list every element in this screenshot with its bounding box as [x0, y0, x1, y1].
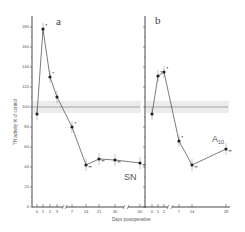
x-tick-label: 21 [97, 209, 102, 214]
significance-marker: * [182, 135, 184, 140]
y-tick-label: 60 [24, 144, 29, 149]
data-point [41, 27, 44, 30]
x-tick-label: 1 [42, 209, 45, 214]
series-line [37, 29, 140, 165]
x-tick-label: 2 [49, 209, 52, 214]
significance-marker: * [161, 70, 163, 75]
y-tick-label: 20 [24, 184, 29, 189]
y-tick-label: 180 [22, 24, 30, 29]
series-line [152, 72, 226, 165]
y-tick-label: 100 [22, 104, 30, 109]
region-label-sn: SN [124, 172, 137, 182]
significance-marker: * [75, 121, 77, 126]
y-tick-label: 40 [24, 164, 29, 169]
data-point [84, 163, 87, 166]
y-tick-label: 160 [22, 44, 30, 49]
x-tick-label: 14 [190, 209, 195, 214]
x-tick-label: 30 [113, 209, 118, 214]
panel-a-letter: a [56, 15, 61, 27]
data-point [150, 112, 153, 115]
data-point [97, 157, 100, 160]
y-tick-label: 80 [24, 124, 29, 129]
x-tick-label: 1 [157, 209, 160, 214]
y-tick-label: 120 [22, 84, 30, 89]
data-point [162, 70, 165, 73]
panel-b: 01271428******* [143, 16, 232, 214]
significance-marker: * [46, 23, 48, 28]
data-point [156, 74, 159, 77]
region-label-a10: A10 [212, 134, 224, 145]
x-axis-title: Days postoperative [112, 217, 151, 222]
x-tick-label: 14 [84, 209, 89, 214]
figure: 0204060801001201401601800123714213060***… [0, 0, 245, 232]
x-tick-label: 3 [56, 209, 59, 214]
significance-marker: * [167, 66, 169, 71]
data-point [138, 161, 141, 164]
significance-marker: ** [118, 160, 122, 165]
data-point [55, 95, 58, 98]
y-axis-title: TH activity % of control [13, 99, 18, 145]
x-tick-label: 0 [151, 209, 154, 214]
significance-marker: * [53, 71, 55, 76]
panel-a: 0204060801001201401601800123714213060***… [22, 16, 146, 214]
data-point [190, 163, 193, 166]
significance-marker: ** [89, 165, 93, 170]
data-point [113, 158, 116, 161]
data-point [224, 147, 227, 150]
x-tick-label: 7 [178, 209, 181, 214]
y-tick-label: 140 [22, 64, 30, 69]
significance-marker: ** [102, 159, 106, 164]
x-tick-label: 7 [71, 209, 74, 214]
x-tick-label: 2 [163, 209, 166, 214]
x-tick-label: 28 [224, 209, 229, 214]
panel-b-letter: b [155, 14, 161, 26]
significance-marker: ** [195, 165, 199, 170]
x-tick-label: 60 [138, 209, 143, 214]
data-point [70, 125, 73, 128]
significance-marker: ** [229, 149, 233, 154]
data-point [35, 112, 38, 115]
y-tick-label: 0 [27, 204, 30, 209]
data-point [177, 139, 180, 142]
x-tick-label: 0 [36, 209, 39, 214]
data-point [48, 75, 51, 78]
